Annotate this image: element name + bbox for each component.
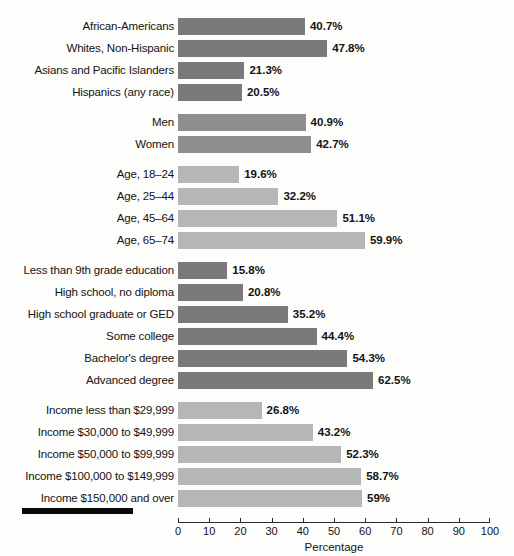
footer-rule xyxy=(22,508,133,514)
axis-tick-label: 70 xyxy=(390,525,402,537)
bar-row: Income $100,000 to $149,99958.7% xyxy=(0,468,514,485)
category-label: Income less than $29,999 xyxy=(46,402,174,419)
category-label: High school, no diploma xyxy=(55,284,174,301)
axis-tick xyxy=(334,518,335,523)
bar-track: 43.2% xyxy=(178,424,490,441)
bar-row: Whites, Non-Hispanic47.8% xyxy=(0,40,514,57)
bar-track: 15.8% xyxy=(178,262,490,279)
category-label: Asians and Pacific Islanders xyxy=(34,62,174,79)
bar-row: Income $30,000 to $49,99943.2% xyxy=(0,424,514,441)
bar-value-label: 43.2% xyxy=(313,424,351,441)
bar-value-label: 47.8% xyxy=(327,40,365,57)
category-label: Income $100,000 to $149,999 xyxy=(25,468,174,485)
bar-row: African-Americans40.7% xyxy=(0,18,514,35)
axis-tick xyxy=(459,518,460,523)
bar-row: Age, 65–7459.9% xyxy=(0,232,514,249)
bar-value-label: 15.8% xyxy=(227,262,265,279)
axis-tick-label: 60 xyxy=(359,525,371,537)
axis-tick-label: 90 xyxy=(453,525,465,537)
bar-group-race-ethnicity: African-Americans40.7%Whites, Non-Hispan… xyxy=(0,0,514,101)
bar[interactable] xyxy=(178,328,317,345)
bar[interactable] xyxy=(178,166,239,183)
category-label: Advanced degree xyxy=(86,372,174,389)
bar[interactable] xyxy=(178,284,243,301)
bar-row: Less than 9th grade education15.8% xyxy=(0,262,514,279)
bar[interactable] xyxy=(178,188,278,205)
category-label: Income $150,000 and over xyxy=(41,490,174,507)
bar-value-label: 35.2% xyxy=(288,306,326,323)
bar-group-education: Less than 9th grade education15.8%High s… xyxy=(0,262,514,389)
bar-value-label: 51.1% xyxy=(337,210,375,227)
bar[interactable] xyxy=(178,210,337,227)
bar[interactable] xyxy=(178,446,341,463)
bar-track: 59.9% xyxy=(178,232,490,249)
axis-tick-label: 50 xyxy=(328,525,340,537)
bar-value-label: 44.4% xyxy=(317,328,355,345)
bar[interactable] xyxy=(178,84,242,101)
axis-tick xyxy=(272,518,273,523)
category-label: Age, 25–44 xyxy=(117,188,174,205)
bar[interactable] xyxy=(178,114,306,131)
bar-track: 47.8% xyxy=(178,40,490,57)
axis-tick-label: 40 xyxy=(297,525,309,537)
bar-row: Men40.9% xyxy=(0,114,514,131)
bar-row: Asians and Pacific Islanders21.3% xyxy=(0,62,514,79)
bar[interactable] xyxy=(178,136,311,153)
bar-value-label: 59% xyxy=(362,490,390,507)
bar[interactable] xyxy=(178,490,362,507)
axis-tick-label: 80 xyxy=(421,525,433,537)
bar-track: 44.4% xyxy=(178,328,490,345)
category-label: Less than 9th grade education xyxy=(24,262,174,279)
bar[interactable] xyxy=(178,372,373,389)
bar[interactable] xyxy=(178,468,361,485)
bar-value-label: 58.7% xyxy=(361,468,399,485)
bar-group-gender: Men40.9%Women42.7% xyxy=(0,114,514,153)
bar-row: Hispanics (any race)20.5% xyxy=(0,84,514,101)
bar-track: 21.3% xyxy=(178,62,490,79)
bar[interactable] xyxy=(178,424,313,441)
bar-value-label: 42.7% xyxy=(311,136,349,153)
category-label: Whites, Non-Hispanic xyxy=(66,40,174,57)
bar-track: 52.3% xyxy=(178,446,490,463)
bar-row: Women42.7% xyxy=(0,136,514,153)
bar-group-income: Income less than $29,99926.8%Income $30,… xyxy=(0,402,514,507)
bar-track: 26.8% xyxy=(178,402,490,419)
category-label: African-Americans xyxy=(83,18,174,35)
bar-row: Income less than $29,99926.8% xyxy=(0,402,514,419)
bar[interactable] xyxy=(178,402,262,419)
x-axis: Percentage 0102030405060708090100 xyxy=(178,522,490,556)
bar[interactable] xyxy=(178,40,327,57)
bar[interactable] xyxy=(178,18,305,35)
bar-track: 51.1% xyxy=(178,210,490,227)
bar-track: 19.6% xyxy=(178,166,490,183)
category-label: Men xyxy=(152,114,174,131)
bar-row: Some college44.4% xyxy=(0,328,514,345)
bar[interactable] xyxy=(178,262,227,279)
bar-value-label: 62.5% xyxy=(373,372,411,389)
bar-row: Bachelor's degree54.3% xyxy=(0,350,514,367)
bar-track: 62.5% xyxy=(178,372,490,389)
axis-tick-label: 20 xyxy=(234,525,246,537)
bar-value-label: 32.2% xyxy=(278,188,316,205)
category-label: Income $50,000 to $99,999 xyxy=(38,446,174,463)
bar[interactable] xyxy=(178,306,288,323)
bar-value-label: 54.3% xyxy=(347,350,385,367)
bar-value-label: 20.8% xyxy=(243,284,281,301)
axis-tick xyxy=(209,518,210,523)
bar[interactable] xyxy=(178,350,347,367)
bar[interactable] xyxy=(178,62,244,79)
category-label: Age, 18–24 xyxy=(117,166,174,183)
bar-row: High school graduate or GED35.2% xyxy=(0,306,514,323)
bar[interactable] xyxy=(178,232,365,249)
bar-track: 20.8% xyxy=(178,284,490,301)
axis-tick-label: 100 xyxy=(481,525,499,537)
bar-value-label: 40.7% xyxy=(305,18,343,35)
bar-track: 59% xyxy=(178,490,490,507)
axis-tick-label: 0 xyxy=(175,525,181,537)
x-axis-title: Percentage xyxy=(178,541,490,553)
bar-track: 54.3% xyxy=(178,350,490,367)
bar-row: Age, 45–6451.1% xyxy=(0,210,514,227)
category-label: Bachelor's degree xyxy=(84,350,174,367)
bar-value-label: 26.8% xyxy=(262,402,300,419)
